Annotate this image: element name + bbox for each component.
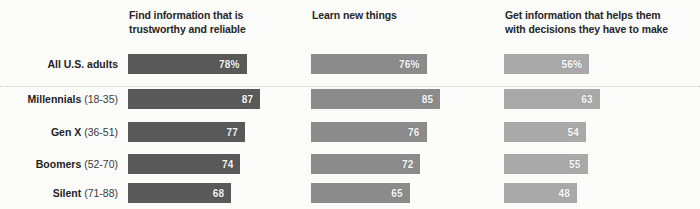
- bar: 65: [311, 183, 410, 203]
- bar-value-label: 72: [402, 159, 421, 170]
- bar-value-label: 65: [391, 188, 410, 199]
- bar: 77: [128, 122, 245, 142]
- bar: 74: [128, 154, 240, 174]
- bar: 76%: [311, 54, 427, 74]
- bar-value-label: 55: [569, 159, 588, 170]
- bar: 85: [311, 89, 440, 109]
- bar-value-label: 76%: [399, 59, 427, 70]
- category-label-name: Boomers: [36, 158, 82, 170]
- bar-value-label: 63: [581, 94, 600, 105]
- category-label-age-range: (36-51): [81, 126, 118, 138]
- bar-value-label: 78%: [219, 59, 247, 70]
- bar-panel-trustworthy: 78%87777468: [128, 0, 292, 209]
- bar-value-label: 68: [213, 188, 232, 199]
- category-label-name: All U.S. adults: [47, 58, 118, 70]
- category-label-age-range: (18-35): [81, 93, 118, 105]
- bar-value-label: 85: [422, 94, 441, 105]
- category-label-name: Millennials: [28, 93, 82, 105]
- category-label-age-range: (71-88): [81, 187, 118, 199]
- bar-value-label: 48: [558, 188, 577, 199]
- bar-value-label: 77: [227, 127, 246, 138]
- bar-panel-learn-new-things: 76%85767265: [311, 0, 475, 209]
- bar: 87: [128, 89, 260, 109]
- category-label: Gen X (36-51): [0, 126, 118, 138]
- bar-value-label: 76: [408, 127, 427, 138]
- bar: 76: [311, 122, 427, 142]
- bar: 72: [311, 154, 420, 174]
- bar: 48: [504, 183, 577, 203]
- category-label: Millennials (18-35): [0, 93, 118, 105]
- bar-value-label: 56%: [561, 59, 589, 70]
- category-label: Boomers (52-70): [0, 158, 118, 170]
- category-label-age-range: (52-70): [81, 158, 118, 170]
- bar: 78%: [128, 54, 247, 74]
- bar-value-label: 74: [222, 159, 241, 170]
- grouped-bar-chart: Find information that is trustworthy and…: [0, 0, 700, 209]
- bar-value-label: 54: [568, 127, 587, 138]
- bar: 56%: [504, 54, 589, 74]
- bar-value-label: 87: [242, 94, 261, 105]
- category-label: All U.S. adults: [0, 58, 118, 70]
- bar: 55: [504, 154, 588, 174]
- bar: 63: [504, 89, 600, 109]
- category-label-name: Silent: [53, 187, 82, 199]
- bar-panel-decisions: 56%63545548: [504, 0, 668, 209]
- bar: 54: [504, 122, 586, 142]
- category-label: Silent (71-88): [0, 187, 118, 199]
- category-label-name: Gen X: [51, 126, 81, 138]
- bar: 68: [128, 183, 231, 203]
